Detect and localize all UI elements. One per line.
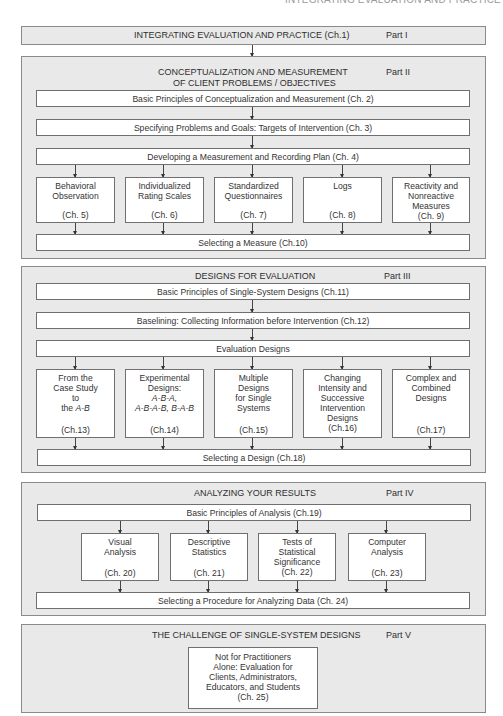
arrow-ch11-ch12 <box>252 300 253 312</box>
ch14-line: A-B-A-B, B-A-B <box>135 403 194 413</box>
ch5-line: Observation <box>52 191 98 201</box>
part-3-label: Part III <box>384 271 411 281</box>
ch9-line: Measures <box>412 201 450 211</box>
ch2-box: Basic Principles of Conceptualization an… <box>36 90 470 107</box>
ch6-box: Individualized Rating Scales (Ch. 6) <box>125 177 204 223</box>
ch21-label: (Ch. 21) <box>193 568 224 578</box>
arrow-eval-ch15 <box>252 357 253 369</box>
arrow-ch22-ch24 <box>297 581 298 592</box>
ch5-line: Behavioral <box>55 181 96 191</box>
arrow-ch19-ch21 <box>208 521 209 533</box>
ch19-box: Basic Principles of Analysis (Ch.19) <box>37 504 471 521</box>
ch8-box: Logs (Ch. 8) <box>303 177 382 223</box>
ch25-line: Alone: Evaluation for <box>213 662 292 672</box>
arrow-ch19-ch22 <box>297 521 298 533</box>
ch16-label: (Ch.16) <box>328 423 357 433</box>
ch13-line: Case Study <box>53 383 97 393</box>
ch25-label: (Ch. 25) <box>237 692 268 702</box>
ch17-label: (Ch.17) <box>417 425 446 435</box>
ch20-line: Analysis <box>104 547 136 557</box>
ch22-label: (Ch. 22) <box>281 567 312 577</box>
part-1-label: Part I <box>386 30 408 40</box>
ch16-box: Changing Intensity and Successive Interv… <box>303 369 382 438</box>
part-5-label: Part V <box>386 630 411 640</box>
ch20-box: Visual Analysis (Ch. 20) <box>81 533 159 581</box>
arrow-ch17-ch18 <box>430 438 431 449</box>
ab-design-label: A-B <box>76 403 90 413</box>
ch16-line: Intensity and <box>318 383 367 393</box>
ch14-label: (Ch.14) <box>150 425 179 435</box>
ch23-line: Computer <box>368 537 406 547</box>
arrow-ch20-ch24 <box>120 581 121 592</box>
ch22-line: Tests of <box>282 537 312 547</box>
ch13-line: to <box>72 393 79 403</box>
arrow-ch5-ch10 <box>75 223 76 234</box>
arrow-ch3-ch4 <box>252 136 253 148</box>
ch4-box: Developing a Measurement and Recording P… <box>36 148 470 165</box>
ch13-label: (Ch.13) <box>61 425 90 435</box>
ch8-label: (Ch. 8) <box>329 210 355 220</box>
ch16-line: Changing <box>324 373 361 383</box>
ch5-label: (Ch. 5) <box>62 210 88 220</box>
ch9-box: Reactivity and Nonreactive Measures (Ch.… <box>392 177 470 223</box>
part-5-title: THE CHALLENGE OF SINGLE-SYSTEM DESIGNS <box>152 630 361 641</box>
ch7-line: Standardized <box>228 181 279 191</box>
arrow-eval-ch14 <box>163 357 164 369</box>
arrow-eval-ch13 <box>75 357 76 369</box>
ch22-box: Tests of Statistical Significance (Ch. 2… <box>258 533 336 581</box>
arrow-ch2-ch3 <box>252 107 253 119</box>
arrow-ch4-ch7 <box>252 165 253 177</box>
abab-bab-label: A-B-A-B, B-A-B <box>135 403 194 413</box>
ch14-line: Experimental <box>139 373 189 383</box>
ch22-line: Significance <box>274 557 320 567</box>
ch8-line: Logs <box>333 181 352 191</box>
ch12-box: Baselining: Collecting Information befor… <box>36 312 470 329</box>
arrow-ch4-ch9 <box>430 165 431 177</box>
arrow-ch9-ch10 <box>430 223 431 234</box>
ch25-box: Not for Practitioners Alone: Evaluation … <box>188 647 318 709</box>
part-4-title: ANALYZING YOUR RESULTS <box>194 488 316 499</box>
ch9-line: Reactivity and <box>404 181 458 191</box>
ch7-line: Questionnaires <box>225 191 283 201</box>
ch7-box: Standardized Questionnaires (Ch. 7) <box>214 177 293 223</box>
arrow-ch14-ch18 <box>163 438 164 449</box>
arrow-p1-p2 <box>252 45 253 56</box>
ch22-line: Statistical <box>279 547 316 557</box>
arrow-ch6-ch10 <box>163 223 164 234</box>
ch21-line: Statistics <box>192 547 226 557</box>
arrow-ch19-ch20 <box>120 521 121 533</box>
arrow-ch19-ch23 <box>386 521 387 533</box>
evaluation-designs-box: Evaluation Designs <box>36 340 470 357</box>
arrow-ch15-ch18 <box>252 438 253 449</box>
ch18-box: Selecting a Design (Ch.18) <box>37 449 471 466</box>
ch15-box: Multiple Designs for Single Systems (Ch.… <box>214 369 293 438</box>
arrow-eval-ch17 <box>430 357 431 369</box>
ch17-box: Complex and Combined Designs (Ch.17) <box>392 369 470 438</box>
ch9-line: Nonreactive <box>408 191 454 201</box>
ch20-line: Visual <box>108 537 131 547</box>
arrow-ch12-eval <box>252 329 253 340</box>
ch15-line: Systems <box>237 403 270 413</box>
ch23-line: Analysis <box>371 547 403 557</box>
part-2-title-line2: OF CLIENT PROBLEMS / OBJECTIVES <box>173 78 336 89</box>
ch16-line: Intervention <box>320 403 365 413</box>
ch6-line: Individualized <box>138 181 190 191</box>
ch15-line: Multiple <box>239 373 269 383</box>
ch14-box: Experimental Designs: A-B-A, A-B-A-B, B-… <box>125 369 204 438</box>
ch17-line: Combined <box>411 383 450 393</box>
ch13-line: the A-B <box>61 403 90 413</box>
part-1-title: INTEGRATING EVALUATION AND PRACTICE (Ch.… <box>134 30 350 41</box>
part-3-title: DESIGNS FOR EVALUATION <box>195 271 315 282</box>
arrow-ch13-ch18 <box>75 438 76 449</box>
ch15-line: Designs <box>238 383 269 393</box>
ch10-box: Selecting a Measure (Ch.10) <box>36 234 470 251</box>
ch6-label: (Ch. 6) <box>151 210 177 220</box>
arrow-eval-ch16 <box>342 357 343 369</box>
ch14-line: Designs: <box>148 383 181 393</box>
part-2-label: Part II <box>386 67 410 77</box>
ch13-box: From the Case Study to the A-B (Ch.13) <box>36 369 115 438</box>
arrow-ch23-ch24 <box>386 581 387 592</box>
arrow-ch16-ch18 <box>342 438 343 449</box>
ch14-line: A-B-A, <box>152 393 177 403</box>
ch23-box: Computer Analysis (Ch. 23) <box>348 533 426 581</box>
